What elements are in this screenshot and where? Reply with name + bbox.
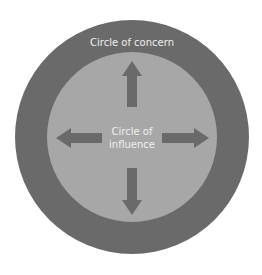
circle-of-influence-label-line1: Circle of <box>112 126 153 137</box>
circle-of-influence-label-line2: influence <box>109 139 155 150</box>
circle-of-influence-diagram: Circle of concern Circle of influence <box>0 0 262 275</box>
circle-of-concern-label: Circle of concern <box>90 37 174 48</box>
